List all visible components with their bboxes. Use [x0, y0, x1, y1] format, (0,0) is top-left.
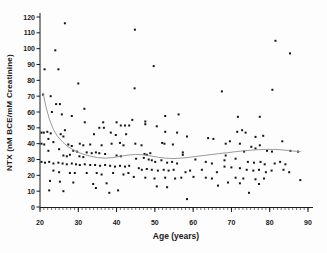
data-point — [109, 165, 111, 167]
data-point — [225, 155, 227, 157]
data-point — [51, 111, 53, 113]
data-point — [138, 167, 140, 169]
data-point — [50, 132, 52, 134]
data-point — [193, 176, 195, 178]
data-point — [67, 144, 69, 146]
scatter-figure: 0102030405060708090100110120203040506070… — [0, 0, 327, 253]
data-point — [119, 142, 121, 144]
data-point — [144, 121, 146, 123]
data-point — [46, 131, 48, 133]
data-point — [61, 113, 63, 115]
data-point — [128, 165, 130, 167]
data-point — [134, 87, 136, 89]
data-point — [221, 90, 223, 92]
data-point — [171, 161, 173, 163]
data-point — [211, 178, 213, 180]
data-point — [60, 133, 62, 135]
data-point — [262, 135, 264, 137]
data-point — [112, 172, 114, 174]
data-point — [189, 170, 191, 172]
data-point — [154, 178, 156, 180]
data-point — [71, 163, 73, 165]
data-point — [94, 164, 96, 166]
data-point — [82, 144, 84, 146]
data-point — [59, 181, 61, 183]
data-point — [255, 147, 257, 149]
data-point — [143, 157, 145, 159]
y-tick-label: 30 — [27, 156, 35, 163]
data-point — [57, 68, 59, 70]
data-point — [125, 133, 127, 135]
data-point — [120, 125, 122, 127]
data-point — [274, 163, 276, 165]
data-point — [111, 143, 113, 145]
data-point — [57, 162, 59, 164]
data-point — [114, 166, 116, 168]
data-point — [62, 155, 64, 157]
data-point — [92, 183, 94, 185]
data-point — [168, 170, 170, 172]
data-point — [62, 163, 64, 165]
data-point — [74, 172, 76, 174]
data-point — [284, 163, 286, 165]
data-point — [176, 132, 178, 134]
data-point — [58, 148, 60, 150]
data-point — [242, 178, 244, 180]
data-point — [156, 185, 158, 187]
data-point — [299, 179, 301, 181]
data-point — [182, 151, 184, 153]
data-point — [182, 154, 184, 156]
data-point — [43, 132, 45, 134]
data-point — [281, 140, 283, 142]
y-tick-label: 40 — [27, 140, 35, 147]
data-point — [245, 132, 247, 134]
data-point — [259, 144, 261, 146]
data-point — [101, 144, 103, 146]
data-point — [275, 40, 277, 42]
data-point — [66, 163, 68, 165]
data-point — [98, 152, 100, 154]
data-point — [95, 151, 97, 153]
data-point — [172, 144, 174, 146]
data-point — [164, 177, 166, 179]
data-point — [134, 143, 136, 145]
data-point — [66, 155, 68, 157]
data-point — [252, 170, 254, 172]
data-point — [163, 143, 165, 145]
data-point — [236, 131, 238, 133]
data-point — [77, 83, 79, 85]
data-point — [72, 182, 74, 184]
x-tick-label: 40 — [113, 219, 121, 226]
data-point — [47, 150, 49, 152]
data-point — [41, 143, 43, 145]
data-point — [212, 138, 214, 140]
y-tick-label: 60 — [27, 109, 35, 116]
data-point — [283, 169, 285, 171]
data-point — [239, 167, 241, 169]
data-point — [131, 119, 133, 121]
data-point — [186, 136, 188, 138]
data-point — [106, 182, 108, 184]
data-point — [133, 176, 135, 178]
data-point — [62, 190, 64, 192]
x-tick-label: 70 — [228, 219, 236, 226]
data-point — [271, 89, 273, 91]
data-point — [259, 116, 261, 118]
data-point — [224, 159, 226, 161]
data-point — [89, 164, 91, 166]
data-point — [64, 22, 66, 24]
data-point — [148, 159, 150, 161]
data-point — [84, 163, 86, 165]
data-point — [52, 141, 54, 143]
data-point — [41, 161, 43, 163]
y-tick-label: 0 — [31, 204, 35, 211]
data-point — [237, 116, 239, 118]
data-point — [44, 162, 46, 164]
data-point — [79, 143, 81, 145]
data-point — [258, 183, 260, 185]
data-point — [241, 129, 243, 131]
data-point — [164, 115, 166, 117]
data-point — [123, 174, 125, 176]
data-point — [102, 121, 104, 123]
data-point — [144, 177, 146, 179]
